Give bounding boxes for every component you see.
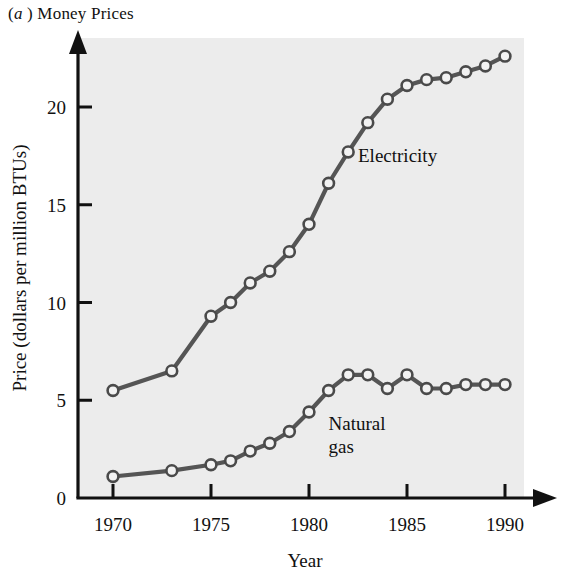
data-point bbox=[382, 383, 393, 394]
x-tick-label-1990: 1990 bbox=[486, 514, 524, 535]
data-point bbox=[362, 117, 373, 128]
data-point bbox=[166, 366, 177, 377]
data-point bbox=[480, 61, 491, 72]
data-point bbox=[245, 446, 256, 457]
data-point bbox=[284, 246, 295, 257]
y-axis-tick-labels: 05101520 bbox=[47, 97, 66, 509]
y-tick-label-0: 0 bbox=[57, 488, 67, 509]
series-label-natural-gas-line2: gas bbox=[329, 436, 354, 457]
money-prices-line-chart: 19701975198019851990 05101520 Electricit… bbox=[0, 0, 570, 582]
data-point bbox=[500, 51, 511, 62]
data-point bbox=[264, 266, 275, 277]
data-point bbox=[421, 74, 432, 85]
data-point bbox=[480, 379, 491, 390]
data-point bbox=[304, 407, 315, 418]
data-point bbox=[343, 147, 354, 158]
data-point bbox=[166, 465, 177, 476]
data-point bbox=[500, 379, 511, 390]
data-point bbox=[343, 369, 354, 380]
data-point bbox=[402, 369, 413, 380]
data-point bbox=[225, 297, 236, 308]
data-point bbox=[460, 379, 471, 390]
series-label-natural-gas-line1: Natural bbox=[329, 413, 386, 434]
data-point bbox=[304, 219, 315, 230]
data-point bbox=[441, 72, 452, 83]
series-label-electricity: Electricity bbox=[358, 145, 438, 166]
data-point bbox=[225, 455, 236, 466]
data-point bbox=[460, 66, 471, 77]
y-axis-title: Price (dollars per million BTUs) bbox=[9, 145, 31, 392]
data-point bbox=[206, 311, 217, 322]
data-point bbox=[264, 438, 275, 449]
data-point bbox=[108, 471, 119, 482]
data-point bbox=[245, 278, 256, 289]
data-point bbox=[108, 385, 119, 396]
x-tick-label-1980: 1980 bbox=[290, 514, 328, 535]
data-point bbox=[382, 94, 393, 105]
data-point bbox=[421, 383, 432, 394]
plot-background bbox=[78, 38, 524, 498]
data-point bbox=[323, 178, 334, 189]
figure-panel: (a ) Money Prices 19701975198019851990 0… bbox=[0, 0, 570, 582]
y-tick-label-20: 20 bbox=[47, 97, 66, 118]
data-point bbox=[323, 385, 334, 396]
x-tick-label-1975: 1975 bbox=[192, 514, 230, 535]
data-point bbox=[402, 80, 413, 91]
x-axis-arrow-icon bbox=[533, 489, 557, 507]
data-point bbox=[362, 369, 373, 380]
y-tick-label-15: 15 bbox=[47, 195, 66, 216]
plot-area-background bbox=[78, 38, 524, 498]
y-tick-label-10: 10 bbox=[47, 293, 66, 314]
data-point bbox=[441, 383, 452, 394]
data-point bbox=[284, 426, 295, 437]
x-axis-tick-labels: 19701975198019851990 bbox=[94, 514, 524, 535]
x-tick-label-1985: 1985 bbox=[388, 514, 426, 535]
x-axis-title: Year bbox=[287, 550, 323, 571]
x-tick-label-1970: 1970 bbox=[94, 514, 132, 535]
y-tick-label-5: 5 bbox=[57, 390, 67, 411]
data-point bbox=[206, 459, 217, 470]
